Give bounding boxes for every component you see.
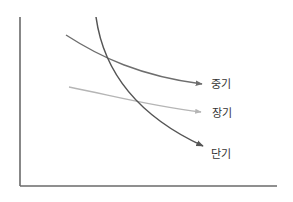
medium-run-curve <box>66 35 202 84</box>
long-run-label: 장기 <box>212 108 232 119</box>
short-run-label: 단기 <box>211 149 231 160</box>
medium-run-label: 중기 <box>211 79 231 90</box>
diagram-canvas <box>0 0 293 202</box>
